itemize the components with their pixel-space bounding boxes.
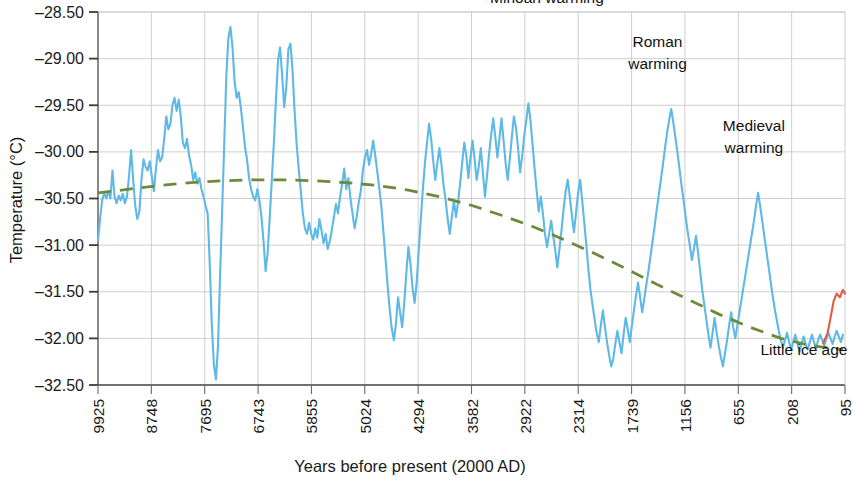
annotation-label: warming: [724, 139, 784, 156]
x-tick-label: 7695: [197, 399, 214, 433]
x-tick-label: 2314: [570, 399, 587, 434]
y-tick-label: –31.00: [35, 237, 84, 254]
x-tick-label: 9925: [90, 399, 107, 433]
annotation-label: Little ice age: [760, 341, 847, 358]
y-tick-label: –32.50: [35, 377, 84, 394]
x-tick-label: 5855: [303, 399, 320, 433]
annotation-label: warming: [627, 55, 687, 72]
x-tick-label: 1739: [624, 399, 641, 433]
x-axis-title: Years before present (2000 AD): [294, 457, 525, 475]
x-tick-label: 8748: [143, 399, 160, 433]
x-tick-label: 95: [837, 399, 853, 416]
y-tick-label: –31.50: [35, 283, 84, 300]
y-tick-label: –28.50: [35, 4, 84, 21]
y-tick-label: –32.00: [35, 330, 84, 347]
annotation-label: Roman: [633, 33, 683, 50]
y-axis-title: Temperature (°C): [7, 137, 25, 264]
y-tick-label: –29.50: [35, 97, 84, 114]
y-tick-labels-group: –28.50–29.00–29.50–30.00–30.50–31.00–31.…: [35, 4, 84, 394]
x-tick-label: 655: [730, 399, 747, 425]
y-tick-label: –30.50: [35, 190, 84, 207]
annotation-label: Medieval: [723, 117, 785, 134]
x-tick-label: 6743: [250, 399, 267, 433]
x-tick-label: 3582: [464, 399, 481, 433]
x-tick-label: 1156: [677, 399, 694, 432]
temperature-chart-figure: –28.50–29.00–29.50–30.00–30.50–31.00–31.…: [0, 0, 853, 483]
annotation-label: Minoan warming: [490, 0, 604, 6]
x-tick-label: 5024: [357, 399, 374, 434]
x-tick-label: 2922: [517, 399, 534, 433]
chart-canvas: –28.50–29.00–29.50–30.00–30.50–31.00–31.…: [0, 0, 853, 483]
x-tick-label: 4294: [410, 399, 427, 434]
x-tick-label: 208: [784, 399, 801, 425]
y-tick-label: –29.00: [35, 50, 84, 67]
y-tick-label: –30.00: [35, 143, 84, 160]
